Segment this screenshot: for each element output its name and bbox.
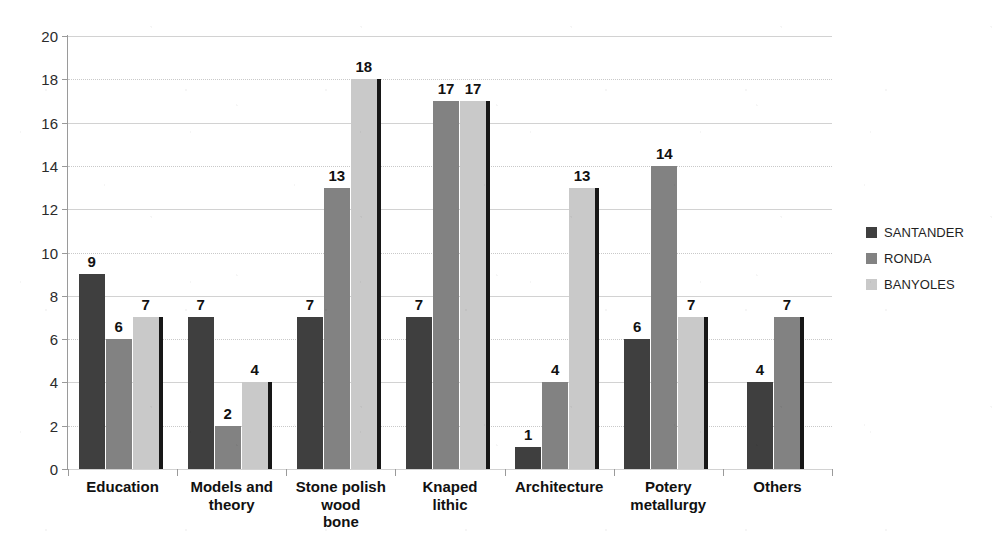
- bar-face: [651, 166, 677, 469]
- bar-santander[interactable]: 4: [747, 36, 773, 469]
- legend-swatch-icon: [866, 227, 877, 238]
- y-axis-tick-label: 10: [0, 245, 58, 260]
- legend-item[interactable]: RONDA: [866, 245, 964, 271]
- plot-area: 96772471318717171413614747: [68, 36, 832, 469]
- bar-banyoles[interactable]: 13: [569, 36, 595, 469]
- x-axis-label: Architecture: [505, 478, 614, 496]
- x-axis-label-line: bone: [286, 513, 395, 531]
- bar-banyoles[interactable]: 7: [678, 36, 704, 469]
- bar-value-label: 14: [656, 146, 673, 161]
- bar-santander[interactable]: 7: [406, 36, 432, 469]
- x-axis-label-line: Models and: [177, 478, 286, 496]
- bar-value-label: 4: [251, 362, 259, 377]
- bar-face: [460, 101, 486, 469]
- bar-value-label: 7: [415, 297, 423, 312]
- y-axis-tick-label: 18: [0, 72, 58, 87]
- bar-ronda[interactable]: 7: [774, 36, 800, 469]
- bar-ronda[interactable]: 17: [433, 36, 459, 469]
- bar-group: 967: [68, 36, 177, 469]
- y-axis-tick-label: 20: [0, 29, 58, 44]
- bar-santander[interactable]: 7: [188, 36, 214, 469]
- x-axis-label-line: wood: [286, 496, 395, 514]
- bar-edge-shadow: [268, 382, 272, 469]
- bar-edge-shadow: [159, 317, 163, 469]
- x-axis-label: Education: [68, 478, 177, 496]
- bar-edge-shadow: [377, 79, 381, 469]
- x-axis-label-line: Stone polish: [286, 478, 395, 496]
- y-axis-tick-label: 2: [0, 418, 58, 433]
- bar-face: [542, 382, 568, 469]
- legend-swatch-icon: [866, 253, 877, 264]
- bar-santander[interactable]: 1: [515, 36, 541, 469]
- x-axis-label-line: lithic: [395, 496, 504, 514]
- x-axis-label-line: Potery: [614, 478, 723, 496]
- legend-label: RONDA: [884, 251, 931, 266]
- x-axis-label-line: metallurgy: [614, 496, 723, 514]
- bar-face: [297, 317, 323, 469]
- bar-ronda[interactable]: 2: [215, 36, 241, 469]
- bar-banyoles[interactable]: 17: [460, 36, 486, 469]
- bar-face: [747, 382, 773, 469]
- bar-face: [351, 79, 377, 469]
- bar-value-label: 6: [633, 319, 641, 334]
- x-axis-label: Others: [723, 478, 832, 496]
- bar-face: [678, 317, 704, 469]
- legend-item[interactable]: BANYOLES: [866, 271, 964, 297]
- y-axis-tick-label: 8: [0, 288, 58, 303]
- chart-legend: SANTANDERRONDABANYOLES: [866, 219, 964, 297]
- bar-edge-shadow: [704, 317, 708, 469]
- bar-santander[interactable]: 7: [297, 36, 323, 469]
- bar-group: 724: [177, 36, 286, 469]
- legend-label: BANYOLES: [884, 277, 955, 292]
- bar-banyoles[interactable]: 18: [351, 36, 377, 469]
- x-axis-category-labels: EducationModels andtheoryStone polishwoo…: [68, 474, 832, 554]
- bar-value-label: 6: [114, 319, 122, 334]
- bar-face: [242, 382, 268, 469]
- bar-ronda[interactable]: 6: [106, 36, 132, 469]
- bar-face: [324, 188, 350, 469]
- x-tick-mark: [832, 469, 833, 476]
- bar-value-label: 17: [438, 81, 455, 96]
- bar-banyoles[interactable]: 7: [133, 36, 159, 469]
- bar-value-label: 7: [687, 297, 695, 312]
- bar-group: 1413: [505, 36, 614, 469]
- bar-santander[interactable]: 9: [79, 36, 105, 469]
- bar-group: 71318: [286, 36, 395, 469]
- bar-value-label: 9: [87, 254, 95, 269]
- bar-ronda[interactable]: 14: [651, 36, 677, 469]
- legend-item[interactable]: SANTANDER: [866, 219, 964, 245]
- x-axis-label: Knapedlithic: [395, 478, 504, 513]
- bar-face: [106, 339, 132, 469]
- legend-label: SANTANDER: [884, 225, 964, 240]
- bar-value-label: 4: [551, 362, 559, 377]
- bar-face: [406, 317, 432, 469]
- bar-value-label: 13: [574, 168, 591, 183]
- bar-santander[interactable]: 6: [624, 36, 650, 469]
- x-axis-label: Poterymetallurgy: [614, 478, 723, 513]
- bar-edge-shadow: [800, 317, 804, 469]
- y-axis-tick-label: 0: [0, 462, 58, 477]
- bar-face: [624, 339, 650, 469]
- x-axis-label: Models andtheory: [177, 478, 286, 513]
- bar-group: 47: [723, 36, 832, 469]
- bar-value-label: 1: [524, 427, 532, 442]
- bar-ronda[interactable]: 4: [542, 36, 568, 469]
- legend-swatch-icon: [866, 279, 877, 290]
- x-axis-label: Stone polishwoodbone: [286, 478, 395, 531]
- bar-value-label: 7: [197, 297, 205, 312]
- x-axis-label-line: Knaped: [395, 478, 504, 496]
- bar-banyoles[interactable]: 4: [242, 36, 268, 469]
- gridline: [68, 469, 832, 470]
- bar-face: [79, 274, 105, 469]
- bar-value-label: 7: [141, 297, 149, 312]
- bar-group: 71717: [395, 36, 504, 469]
- bar-face: [133, 317, 159, 469]
- bar-ronda[interactable]: 13: [324, 36, 350, 469]
- bar-group: 6147: [614, 36, 723, 469]
- y-axis-tick-label: 16: [0, 115, 58, 130]
- bar-value-label: 13: [329, 168, 346, 183]
- y-axis-tick-label: 14: [0, 158, 58, 173]
- y-axis-tick-label: 4: [0, 375, 58, 390]
- bar-value-label: 7: [783, 297, 791, 312]
- bar-chart: 02468101214161820 9677247131871717141361…: [0, 0, 1006, 558]
